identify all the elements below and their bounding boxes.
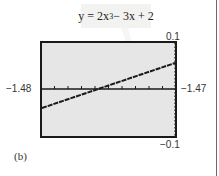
xmax-label: −1.47 [181, 83, 206, 94]
xmin-label: −1.48 [6, 83, 31, 94]
ymin-label: −0.1 [160, 139, 180, 150]
ymax-label: 0.1 [166, 31, 180, 42]
figure-caption: (b) [14, 150, 27, 162]
